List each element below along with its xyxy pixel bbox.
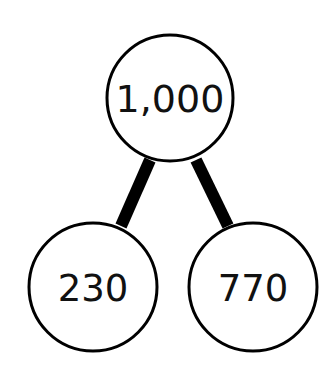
whole-value: 1,000 xyxy=(116,77,225,121)
whole-node: 1,000 xyxy=(107,35,233,161)
part-node-right: 770 xyxy=(189,223,317,351)
part-node-left: 230 xyxy=(29,223,157,351)
number-bond-diagram: 1,000 230 770 xyxy=(0,0,332,380)
connector-right xyxy=(196,160,228,226)
part-left-value: 230 xyxy=(58,267,129,310)
connector-left xyxy=(121,160,150,226)
part-right-value: 770 xyxy=(218,267,289,310)
